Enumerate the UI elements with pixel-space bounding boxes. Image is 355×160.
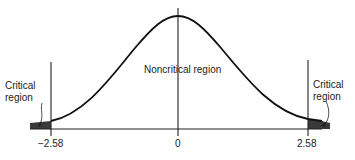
right-critical-pointer (324, 101, 329, 125)
left-critical-label-line2: region (5, 92, 36, 104)
tick-label-center: 0 (175, 138, 181, 149)
noncritical-region-label: Noncritical region (144, 64, 221, 76)
left-critical-pointer (40, 103, 42, 124)
right-critical-label-line1: Critical (313, 79, 344, 91)
normal-curve-diagram (0, 0, 355, 160)
right-critical-label-line2: region (313, 91, 344, 103)
left-critical-label-line1: Critical (5, 80, 36, 92)
right-critical-region-label: Critical region (313, 79, 344, 103)
left-critical-region-label: Critical region (5, 80, 36, 104)
tick-label-left: −2.58 (38, 138, 63, 149)
tick-label-right: 2.58 (297, 138, 316, 149)
